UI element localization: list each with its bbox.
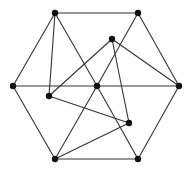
edge-inner-top-inner-left <box>49 39 112 96</box>
edge-top-left-left <box>13 13 55 86</box>
edge-top-left-center <box>55 13 97 86</box>
node-top-right <box>135 10 141 16</box>
edge-bottom-left-inner-bottom-right <box>55 123 129 159</box>
edge-right-bottom-right <box>138 86 179 159</box>
node-inner-left <box>46 93 52 99</box>
node-left <box>10 83 16 89</box>
graph-diagram <box>0 0 192 172</box>
node-bottom-left <box>52 156 58 162</box>
node-center <box>94 83 100 89</box>
edge-top-left-inner-left <box>49 13 55 96</box>
node-inner-bottom-right <box>126 120 132 126</box>
edge-top-right-center <box>97 13 138 86</box>
node-bottom-right <box>135 156 141 162</box>
node-top-left <box>52 10 58 16</box>
node-right <box>176 83 182 89</box>
edge-top-right-right <box>138 13 179 86</box>
node-inner-top <box>109 36 115 42</box>
edge-inner-top-right <box>112 39 179 86</box>
edge-inner-top-inner-bottom-right <box>112 39 129 123</box>
edge-center-bottom-left <box>55 86 97 159</box>
